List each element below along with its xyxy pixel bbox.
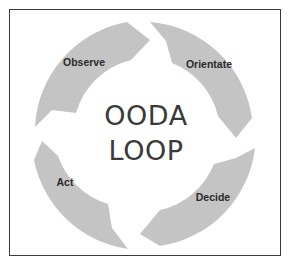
title-line-1: OODA — [104, 100, 187, 131]
orientate-label: Orientate — [186, 58, 232, 70]
title-line-2: LOOP — [109, 135, 184, 166]
decide-label: Decide — [196, 191, 231, 203]
act-label: Act — [57, 176, 74, 188]
observe-label: Observe — [63, 56, 105, 68]
ooda-cycle-diagram: Observe Orientate Decide Act OODA LOOP — [0, 0, 292, 265]
